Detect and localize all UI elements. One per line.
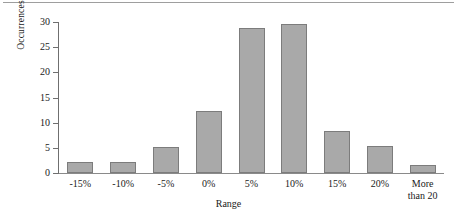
bar — [196, 111, 222, 173]
x-axis-title: Range — [0, 198, 457, 209]
bar — [410, 165, 436, 173]
bar-slot — [153, 22, 179, 173]
bar — [239, 28, 265, 173]
y-tick-0: 0 — [58, 173, 64, 174]
y-tick-mark — [53, 173, 59, 174]
x-axis-line — [58, 173, 444, 174]
y-tick-label: 5 — [45, 141, 50, 154]
histogram-chart: Occurrences 051015202530 -15%-10%-5%0%5%… — [0, 0, 457, 222]
y-tick-label: 25 — [40, 40, 50, 53]
bar-series — [59, 22, 444, 173]
bar — [324, 131, 350, 173]
plot-area: 051015202530 — [58, 22, 444, 174]
bar-slot — [196, 22, 222, 173]
bar — [367, 146, 393, 173]
bar-slot — [324, 22, 350, 173]
bar-slot — [281, 22, 307, 173]
y-tick-label: 0 — [45, 166, 50, 179]
page-top-rule — [3, 2, 454, 3]
bar-slot — [239, 22, 265, 173]
y-tick-label: 10 — [40, 116, 50, 129]
bar — [153, 147, 179, 173]
bar-slot — [367, 22, 393, 173]
bar-slot — [67, 22, 93, 173]
bar — [110, 162, 136, 173]
y-tick-label: 15 — [40, 91, 50, 104]
bar — [67, 162, 93, 173]
y-tick-label: 30 — [40, 15, 50, 28]
y-axis-title: Occurrences — [14, 0, 28, 70]
bar — [281, 24, 307, 173]
bar-slot — [410, 22, 436, 173]
bar-slot — [110, 22, 136, 173]
y-tick-label: 20 — [40, 65, 50, 78]
